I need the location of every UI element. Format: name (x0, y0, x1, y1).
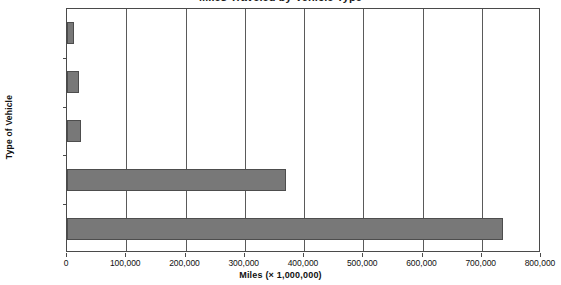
x-axis-tick (362, 253, 363, 257)
x-axis-title: Miles (× 1,000,000) (0, 270, 561, 280)
gridline (482, 9, 483, 251)
bar-bus (67, 120, 81, 142)
x-axis-tick (303, 253, 304, 257)
bar-train (67, 71, 79, 93)
bar-personal (67, 218, 503, 240)
y-axis-title: Type of Vehicle (4, 67, 18, 187)
x-axis-tick (540, 253, 541, 257)
x-axis-tick (244, 253, 245, 257)
chart-root: Miles Traveled by Vehicle Type Type of V… (0, 0, 561, 285)
x-axis-tick (185, 253, 186, 257)
x-axis-tick (125, 253, 126, 257)
y-axis-tick (63, 58, 67, 59)
x-axis-tick (481, 253, 482, 257)
gridline (186, 9, 187, 251)
chart-title: Miles Traveled by Vehicle Type (0, 0, 561, 3)
bar-airplane (67, 169, 286, 191)
y-axis-tick (63, 107, 67, 108)
gridline (423, 9, 424, 251)
x-axis-tick (422, 253, 423, 257)
gridline (363, 9, 364, 251)
plot-area (66, 8, 540, 252)
y-axis-tick (63, 155, 67, 156)
x-tick-label-800000: 800,000 (505, 258, 561, 269)
bar-ship (67, 22, 74, 44)
gridline (126, 9, 127, 251)
x-axis-tick (66, 253, 67, 257)
gridline (304, 9, 305, 251)
gridline (245, 9, 246, 251)
y-axis-tick (63, 204, 67, 205)
